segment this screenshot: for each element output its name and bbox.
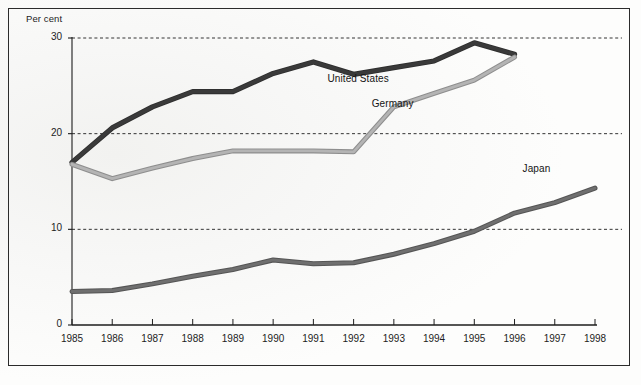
series-outline-0 xyxy=(72,43,515,163)
x-tick-label-1987: 1987 xyxy=(132,333,172,344)
x-tick-label-1997: 1997 xyxy=(535,333,575,344)
y-tick-label-0: 0 xyxy=(36,318,62,329)
gridlines-group xyxy=(72,38,622,229)
line-chart-plot xyxy=(0,0,641,385)
series-outline-1 xyxy=(72,57,515,178)
x-tick-label-1992: 1992 xyxy=(334,333,374,344)
series-line-2 xyxy=(72,188,595,291)
x-tick-label-1991: 1991 xyxy=(293,333,333,344)
x-tick-label-1993: 1993 xyxy=(374,333,414,344)
series-outline-2 xyxy=(72,188,595,291)
series-line-0 xyxy=(72,43,515,163)
x-tick-label-1995: 1995 xyxy=(454,333,494,344)
x-tick-label-1990: 1990 xyxy=(253,333,293,344)
chart-figure: Per cent 0102030198519861987198819891990… xyxy=(0,0,641,385)
y-tick-label-10: 10 xyxy=(36,222,62,233)
x-tick-label-1988: 1988 xyxy=(173,333,213,344)
y-tick-label-20: 20 xyxy=(36,127,62,138)
x-tick-label-1989: 1989 xyxy=(213,333,253,344)
x-tick-label-1994: 1994 xyxy=(414,333,454,344)
series-line-1 xyxy=(72,57,515,178)
series-label-germany: Germany xyxy=(372,98,414,109)
y-tick-label-30: 30 xyxy=(36,31,62,42)
series-label-japan: Japan xyxy=(523,163,551,174)
x-tick-label-1985: 1985 xyxy=(52,333,92,344)
y-axis-title: Per cent xyxy=(26,13,62,24)
x-tick-label-1998: 1998 xyxy=(575,333,615,344)
x-tick-label-1996: 1996 xyxy=(495,333,535,344)
x-tick-label-1986: 1986 xyxy=(92,333,132,344)
series-label-united-states: United States xyxy=(327,73,388,84)
